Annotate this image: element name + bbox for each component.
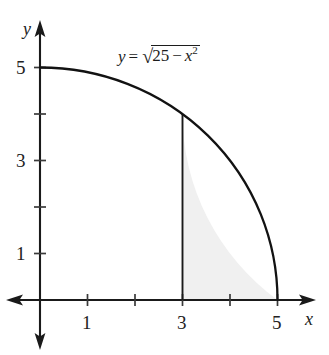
y-tick-label-5: 5 [16,58,26,77]
radicand-constant: 25 [152,46,169,65]
equation-radicand: 25−x2 [151,45,200,64]
x-tick-label-5: 5 [272,313,282,332]
x-tick-label-1: 1 [82,313,92,332]
x-tick-label-3: 3 [177,313,187,332]
radicand-exponent: 2 [192,44,198,56]
equation-radical: √25−x2 [142,46,200,66]
y-tick-label-1: 1 [16,244,26,263]
shaded-area-region [183,114,278,300]
quarter-circle-area-figure: 5 3 1 1 3 5 y x y=√25−x2 [0,0,329,355]
curve-y-equals-sqrt-25-minus-x-squared [40,68,278,301]
x-axis-label: x [305,310,313,328]
y-axis-label: y [23,20,31,38]
equation-lhs: y [118,47,126,66]
curve-equation-label: y=√25−x2 [118,46,200,66]
radicand-minus-sign: − [172,46,182,65]
y-tick-label-3: 3 [16,151,26,170]
equation-equals-sign: = [129,47,139,66]
